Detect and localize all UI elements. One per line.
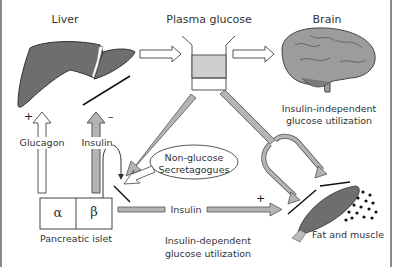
pancreatic-islet-label: Pancreatic islet <box>40 234 112 244</box>
glucose-regulation-diagram: Liver Plasma glucose Brain Insulin-indep… <box>0 0 397 267</box>
insulin-to-liver-arrow-icon <box>87 112 105 193</box>
pancreatic-islet-box <box>40 198 112 229</box>
liver-label: Liver <box>52 14 79 25</box>
bottom-caption-line1: Insulin-dependent <box>165 236 251 246</box>
periphery-inhibitor-bar-2 <box>320 182 350 186</box>
glucagon-arrow-icon <box>33 112 51 193</box>
liver-inhibitor-bar <box>83 76 130 105</box>
islet-inhibitor-bar <box>114 186 130 202</box>
liver-to-plasma-arrow-icon <box>140 46 181 62</box>
glucagon-label: Glucagon <box>20 137 65 149</box>
insulin-periphery-label: Insulin <box>170 205 201 215</box>
feedback-arrowhead-icon <box>118 174 124 180</box>
insulin-periphery-sign: + <box>256 193 265 204</box>
plasma-to-brain-arrow-icon <box>233 46 274 62</box>
beta-cell-label: β <box>90 205 98 218</box>
insulin-liver-label: Insulin <box>81 137 112 149</box>
diagram-graphics <box>0 0 397 267</box>
brain-icon <box>282 28 375 92</box>
alpha-cell-label: α <box>54 206 63 219</box>
brain-label: Brain <box>313 14 342 25</box>
non-glucose-label-line2: Secretagogues <box>159 165 230 175</box>
plasma-glucose-beaker-icon <box>182 36 235 90</box>
plasma-glucose-label: Plasma glucose <box>166 14 251 25</box>
glucagon-sign: + <box>24 111 33 122</box>
non-glucose-label-line1: Non-glucose <box>165 153 224 163</box>
brain-caption-line2: glucose utilization <box>286 116 372 126</box>
insulin-liver-sign: – <box>108 111 114 122</box>
brain-caption-line1: Insulin-independent <box>282 104 377 114</box>
bottom-caption-line2: glucose utilization <box>165 249 251 259</box>
fat-muscle-label: Fat and muscle <box>312 230 384 240</box>
liver-icon <box>18 42 135 108</box>
